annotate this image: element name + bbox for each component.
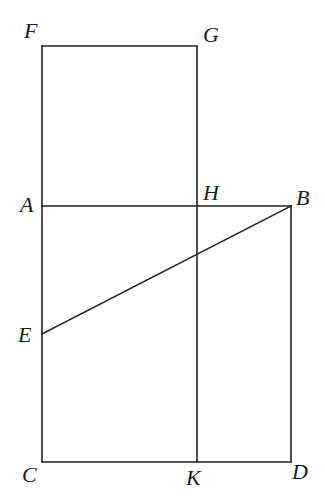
label-A: A [18,192,34,217]
label-F: F [23,18,38,43]
label-D: D [291,459,308,484]
label-E: E [17,322,32,347]
label-C: C [22,462,37,487]
geometry-diagram: F G A H B E C K D [0,0,325,498]
label-G: G [203,22,219,47]
label-K: K [185,465,202,490]
label-B: B [296,185,309,210]
label-H: H [202,180,220,205]
segment-EB [42,206,291,334]
